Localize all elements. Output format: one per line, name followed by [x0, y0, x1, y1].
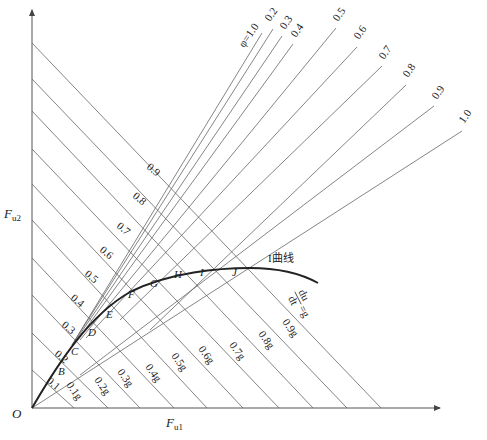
- x-axis-label: Fu1: [165, 415, 183, 432]
- fan-label: 0.7: [376, 43, 394, 62]
- g-label: 0.2g: [92, 374, 113, 397]
- curve-point-label: B: [58, 365, 65, 377]
- y-axis-label: Fu2: [3, 206, 21, 223]
- phi-label: 0.8: [131, 189, 150, 207]
- g-label: 0.9g: [280, 316, 301, 339]
- fan-line: [120, 66, 382, 320]
- curve-point-label: D: [87, 326, 96, 338]
- iso-line: [32, 79, 347, 408]
- curve-point-label: C: [71, 345, 79, 357]
- phi-label: 0.9: [145, 160, 164, 178]
- fan-line: [72, 33, 262, 345]
- curve-point-label: I: [199, 266, 205, 278]
- fan-line: [72, 29, 273, 345]
- curve-point-label: G: [150, 277, 158, 289]
- fan-label: 0.6: [351, 23, 369, 42]
- g-label: 0.6g: [196, 343, 217, 366]
- phi-label: 0.7: [115, 219, 134, 237]
- phi-label: 0.4: [69, 291, 88, 309]
- curve-point-label: F: [127, 288, 135, 300]
- fan-label: 0.5: [330, 5, 348, 24]
- svg-text:=g: =g: [297, 303, 313, 319]
- curve-point-label: H: [173, 268, 183, 280]
- fan-line: [32, 131, 462, 408]
- labels: 0.10.20.30.40.50.60.70.80.90.1g0.2g0.3g0…: [45, 5, 474, 403]
- braking-force-distribution-diagram: 0.10.20.30.40.50.60.70.80.90.1g0.2g0.3g0…: [0, 0, 487, 440]
- fan-line: [74, 36, 282, 343]
- fan-label: 0.9: [429, 83, 447, 102]
- fan-label: 0.8: [400, 61, 418, 80]
- diagram: 0.10.20.30.40.50.60.70.80.90.1g0.2g0.3g0…: [0, 0, 487, 440]
- phi-label: 0.3: [60, 318, 79, 336]
- g-label: 0.5g: [169, 350, 190, 373]
- iso-line: [32, 333, 108, 408]
- g-label: 0.7g: [227, 339, 248, 362]
- i-curve-label: I曲线: [268, 251, 294, 264]
- iso-line: [32, 295, 140, 408]
- fan-label: 1.0: [456, 107, 474, 126]
- phi-label: 0.6: [98, 243, 117, 261]
- svg-text:dt: dt: [286, 294, 301, 307]
- fan-label: 0.2: [262, 5, 280, 23]
- fan-lines: [32, 28, 462, 408]
- g-label: 0.4g: [143, 361, 164, 384]
- origin-label: O: [12, 406, 22, 421]
- curve-point-label: E: [105, 308, 113, 320]
- fan-label: φ=1.0: [236, 20, 261, 49]
- phi-label: 0.5: [83, 267, 102, 285]
